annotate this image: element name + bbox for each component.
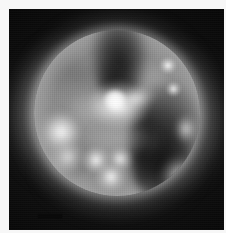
coronal-hole-northwest (50, 56, 98, 100)
active-region-south-3 (96, 164, 126, 190)
quiet-corona-mottle (86, 122, 146, 154)
active-region-south-1 (82, 148, 110, 172)
limb-brightening-ring (34, 30, 200, 196)
active-region-south-2 (108, 148, 132, 170)
solar-image-figure (0, 0, 226, 233)
quiet-corona-mottle (68, 92, 114, 126)
bright-structure-east-limb (176, 116, 196, 142)
bright-point-northeast-upper (160, 58, 176, 73)
active-region-west-limb (38, 112, 80, 152)
scale-bar (38, 214, 62, 218)
solar-image-canvas (9, 9, 224, 230)
filament-channel-east (129, 109, 162, 189)
quiet-corona-mottle (56, 74, 96, 104)
active-region-southwest (50, 142, 86, 172)
bright-point-northeast-lower (166, 82, 181, 96)
active-region-central-core (104, 90, 126, 108)
active-region-central (90, 82, 148, 128)
solar-disk (34, 30, 200, 196)
active-region-central-loop-arm (120, 84, 158, 112)
quiet-corona-mottle (130, 60, 176, 94)
coronal-hole-north-polar (92, 30, 146, 100)
quiet-corona-mottle (116, 126, 164, 154)
quiet-region-southwest (60, 142, 94, 176)
figure-caption (0, 0, 1, 1)
coronal-hole-north-polar-core (98, 60, 128, 114)
